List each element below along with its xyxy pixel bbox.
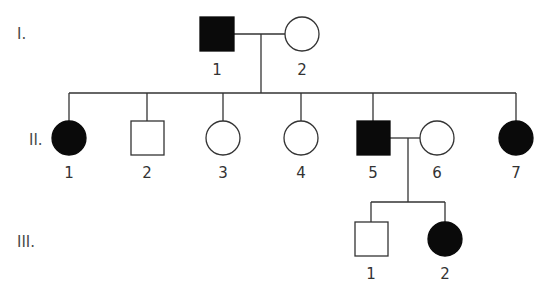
individual-i1-affected-male [200, 17, 234, 51]
individual-number-ii7: 7 [511, 164, 521, 182]
pedigree-diagram: I. II. III. 1 2 1 2 3 4 5 6 7 1 2 [0, 0, 547, 292]
individual-number-ii5: 5 [368, 164, 378, 182]
individual-number-ii2: 2 [142, 164, 152, 182]
individual-number-ii3: 3 [218, 164, 228, 182]
individual-number-ii6: 6 [432, 164, 442, 182]
generation-label-ii: II. [29, 131, 43, 149]
individual-iii2-affected-female [428, 222, 462, 256]
individual-ii4-unaffected-female [284, 121, 318, 155]
generation-label-iii: III. [17, 233, 35, 251]
individual-number-ii1: 1 [64, 164, 74, 182]
individual-ii3-unaffected-female [206, 121, 240, 155]
individual-number-ii4: 4 [296, 164, 306, 182]
individual-ii6-unaffected-female [420, 121, 454, 155]
generation-label-i: I. [17, 25, 26, 43]
individual-number-iii2: 2 [440, 265, 450, 283]
individual-number-i2: 2 [297, 61, 307, 79]
individual-number-i1: 1 [212, 61, 222, 79]
individual-ii5-affected-male [357, 121, 390, 155]
individual-iii1-unaffected-male [355, 222, 388, 256]
individual-ii2-unaffected-male [131, 121, 164, 155]
individual-ii1-affected-female [52, 121, 86, 155]
individual-ii7-affected-female [499, 121, 533, 155]
individual-number-iii1: 1 [366, 265, 376, 283]
individual-i2-unaffected-female [285, 17, 319, 51]
